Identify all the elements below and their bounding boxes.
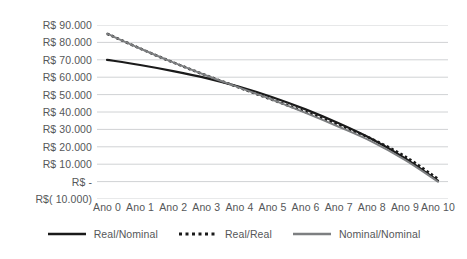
- x-tick-label: Ano 4: [225, 201, 253, 213]
- plot-area: [97, 25, 448, 199]
- x-tick-label: Ano 9: [391, 201, 419, 213]
- series-line: [107, 60, 438, 181]
- legend-item[interactable]: Real/Nominal: [47, 228, 158, 240]
- chart-legend: Real/NominalReal/RealNominal/Nominal: [0, 228, 467, 240]
- y-tick-label: R$ 60.000: [8, 72, 92, 83]
- y-tick-label: R$( 10.000): [8, 194, 92, 205]
- y-tick-label: R$ 80.000: [8, 37, 92, 48]
- legend-swatch-icon: [178, 230, 218, 238]
- y-tick-label: R$ 40.000: [8, 107, 92, 118]
- y-tick-label: R$ 90.000: [8, 20, 92, 31]
- y-tick-label: R$ 20.000: [8, 141, 92, 152]
- x-tick-label: Ano 0: [93, 201, 121, 213]
- line-chart: R$ 90.000R$ 80.000R$ 70.000R$ 60.000R$ 5…: [0, 0, 467, 259]
- legend-label: Real/Real: [225, 228, 272, 240]
- y-axis-tick-labels: R$ 90.000R$ 80.000R$ 70.000R$ 60.000R$ 5…: [0, 0, 92, 259]
- legend-item[interactable]: Nominal/Nominal: [292, 228, 420, 240]
- x-tick-label: Ano 10: [421, 201, 455, 213]
- x-tick-label: Ano 5: [259, 201, 287, 213]
- series-line: [107, 34, 438, 182]
- y-tick-label: R$ 70.000: [8, 54, 92, 65]
- series-lines: [107, 34, 438, 182]
- legend-label: Nominal/Nominal: [339, 228, 420, 240]
- x-tick-label: Ano 2: [159, 201, 187, 213]
- x-tick-label: Ano 7: [325, 201, 353, 213]
- y-tick-label: R$ 10.000: [8, 159, 92, 170]
- legend-label: Real/Nominal: [94, 228, 158, 240]
- y-tick-label: R$ -: [8, 176, 92, 187]
- gridlines: [97, 25, 448, 199]
- y-tick-label: R$ 30.000: [8, 124, 92, 135]
- x-axis-tick-labels: Ano 0Ano 1Ano 2Ano 3Ano 4Ano 5Ano 6Ano 7…: [97, 201, 448, 217]
- x-tick-label: Ano 6: [292, 201, 320, 213]
- y-tick-label: R$ 50.000: [8, 89, 92, 100]
- x-tick-label: Ano 1: [126, 201, 154, 213]
- legend-swatch-icon: [47, 230, 87, 238]
- legend-swatch-icon: [292, 230, 332, 238]
- x-tick-label: Ano 3: [192, 201, 220, 213]
- legend-item[interactable]: Real/Real: [178, 228, 272, 240]
- x-tick-label: Ano 8: [358, 201, 386, 213]
